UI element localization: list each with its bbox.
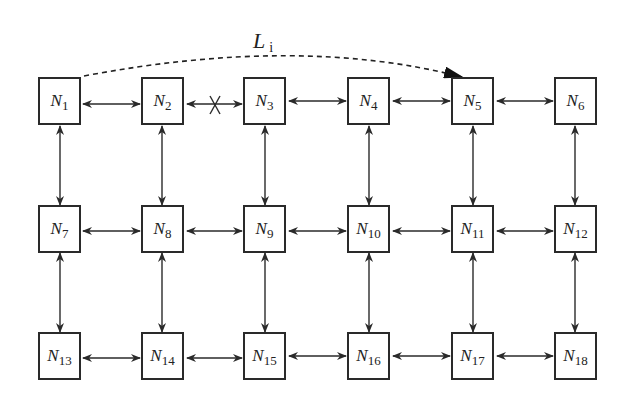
node-n7: N7 — [38, 205, 81, 253]
node-n15: N15 — [243, 332, 286, 380]
broken-link-x-icon — [210, 96, 220, 114]
node-n4: N4 — [347, 77, 390, 125]
link-layer — [0, 0, 634, 400]
node-n1: N1 — [38, 77, 81, 125]
node-n11: N11 — [451, 205, 494, 253]
path-label: Li — [253, 28, 273, 54]
node-n5: N5 — [451, 77, 494, 125]
node-n6: N6 — [554, 77, 597, 125]
node-n18: N18 — [554, 332, 597, 380]
node-n8: N8 — [141, 205, 184, 253]
node-n12: N12 — [554, 205, 597, 253]
node-n16: N16 — [347, 332, 390, 380]
node-n17: N17 — [451, 332, 494, 380]
node-n2: N2 — [141, 77, 184, 125]
node-n3: N3 — [243, 77, 286, 125]
node-n9: N9 — [243, 205, 286, 253]
dashed-path-li — [84, 56, 462, 77]
node-n14: N14 — [141, 332, 184, 380]
node-n10: N10 — [347, 205, 390, 253]
node-n13: N13 — [38, 332, 81, 380]
